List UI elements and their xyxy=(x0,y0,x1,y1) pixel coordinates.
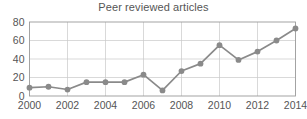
data-point-2009 xyxy=(198,61,204,67)
y-axis-tick-labels: 020406080 xyxy=(13,16,25,102)
data-point-2003 xyxy=(84,79,90,85)
y-tick-label-80: 80 xyxy=(13,16,25,28)
line-chart-plot: 020406080 200020022004200620082010201220… xyxy=(0,0,307,119)
x-axis-tick-labels: 20002002200420062008201020122014 xyxy=(18,99,307,111)
x-tick-label-2000: 2000 xyxy=(18,99,42,111)
data-point-2002 xyxy=(65,87,71,93)
chart-container: Peer reviewed articles 020406080 2000200… xyxy=(0,0,307,119)
data-point-2008 xyxy=(179,68,185,74)
data-point-2001 xyxy=(46,84,52,90)
data-point-2005 xyxy=(122,79,128,85)
x-tick-label-2008: 2008 xyxy=(170,99,194,111)
series-line-path xyxy=(30,28,296,90)
x-tick-label-2004: 2004 xyxy=(94,99,118,111)
data-point-2013 xyxy=(274,38,280,44)
data-point-2014 xyxy=(293,26,299,32)
y-tick-label-20: 20 xyxy=(13,71,25,83)
data-point-2011 xyxy=(236,57,242,63)
y-tick-label-40: 40 xyxy=(13,53,25,65)
y-gridlines xyxy=(30,41,296,78)
data-point-2010 xyxy=(217,42,223,48)
data-point-2006 xyxy=(141,72,147,78)
data-point-2007 xyxy=(160,88,166,94)
data-point-2012 xyxy=(255,49,261,55)
data-point-2000 xyxy=(27,85,33,91)
x-tick-label-2012: 2012 xyxy=(246,99,270,111)
x-tick-label-2010: 2010 xyxy=(208,99,232,111)
x-tick-label-2014: 2014 xyxy=(284,99,307,111)
x-tick-label-2002: 2002 xyxy=(56,99,80,111)
x-tick-label-2006: 2006 xyxy=(132,99,156,111)
data-point-2004 xyxy=(103,79,109,85)
y-tick-label-60: 60 xyxy=(13,34,25,46)
